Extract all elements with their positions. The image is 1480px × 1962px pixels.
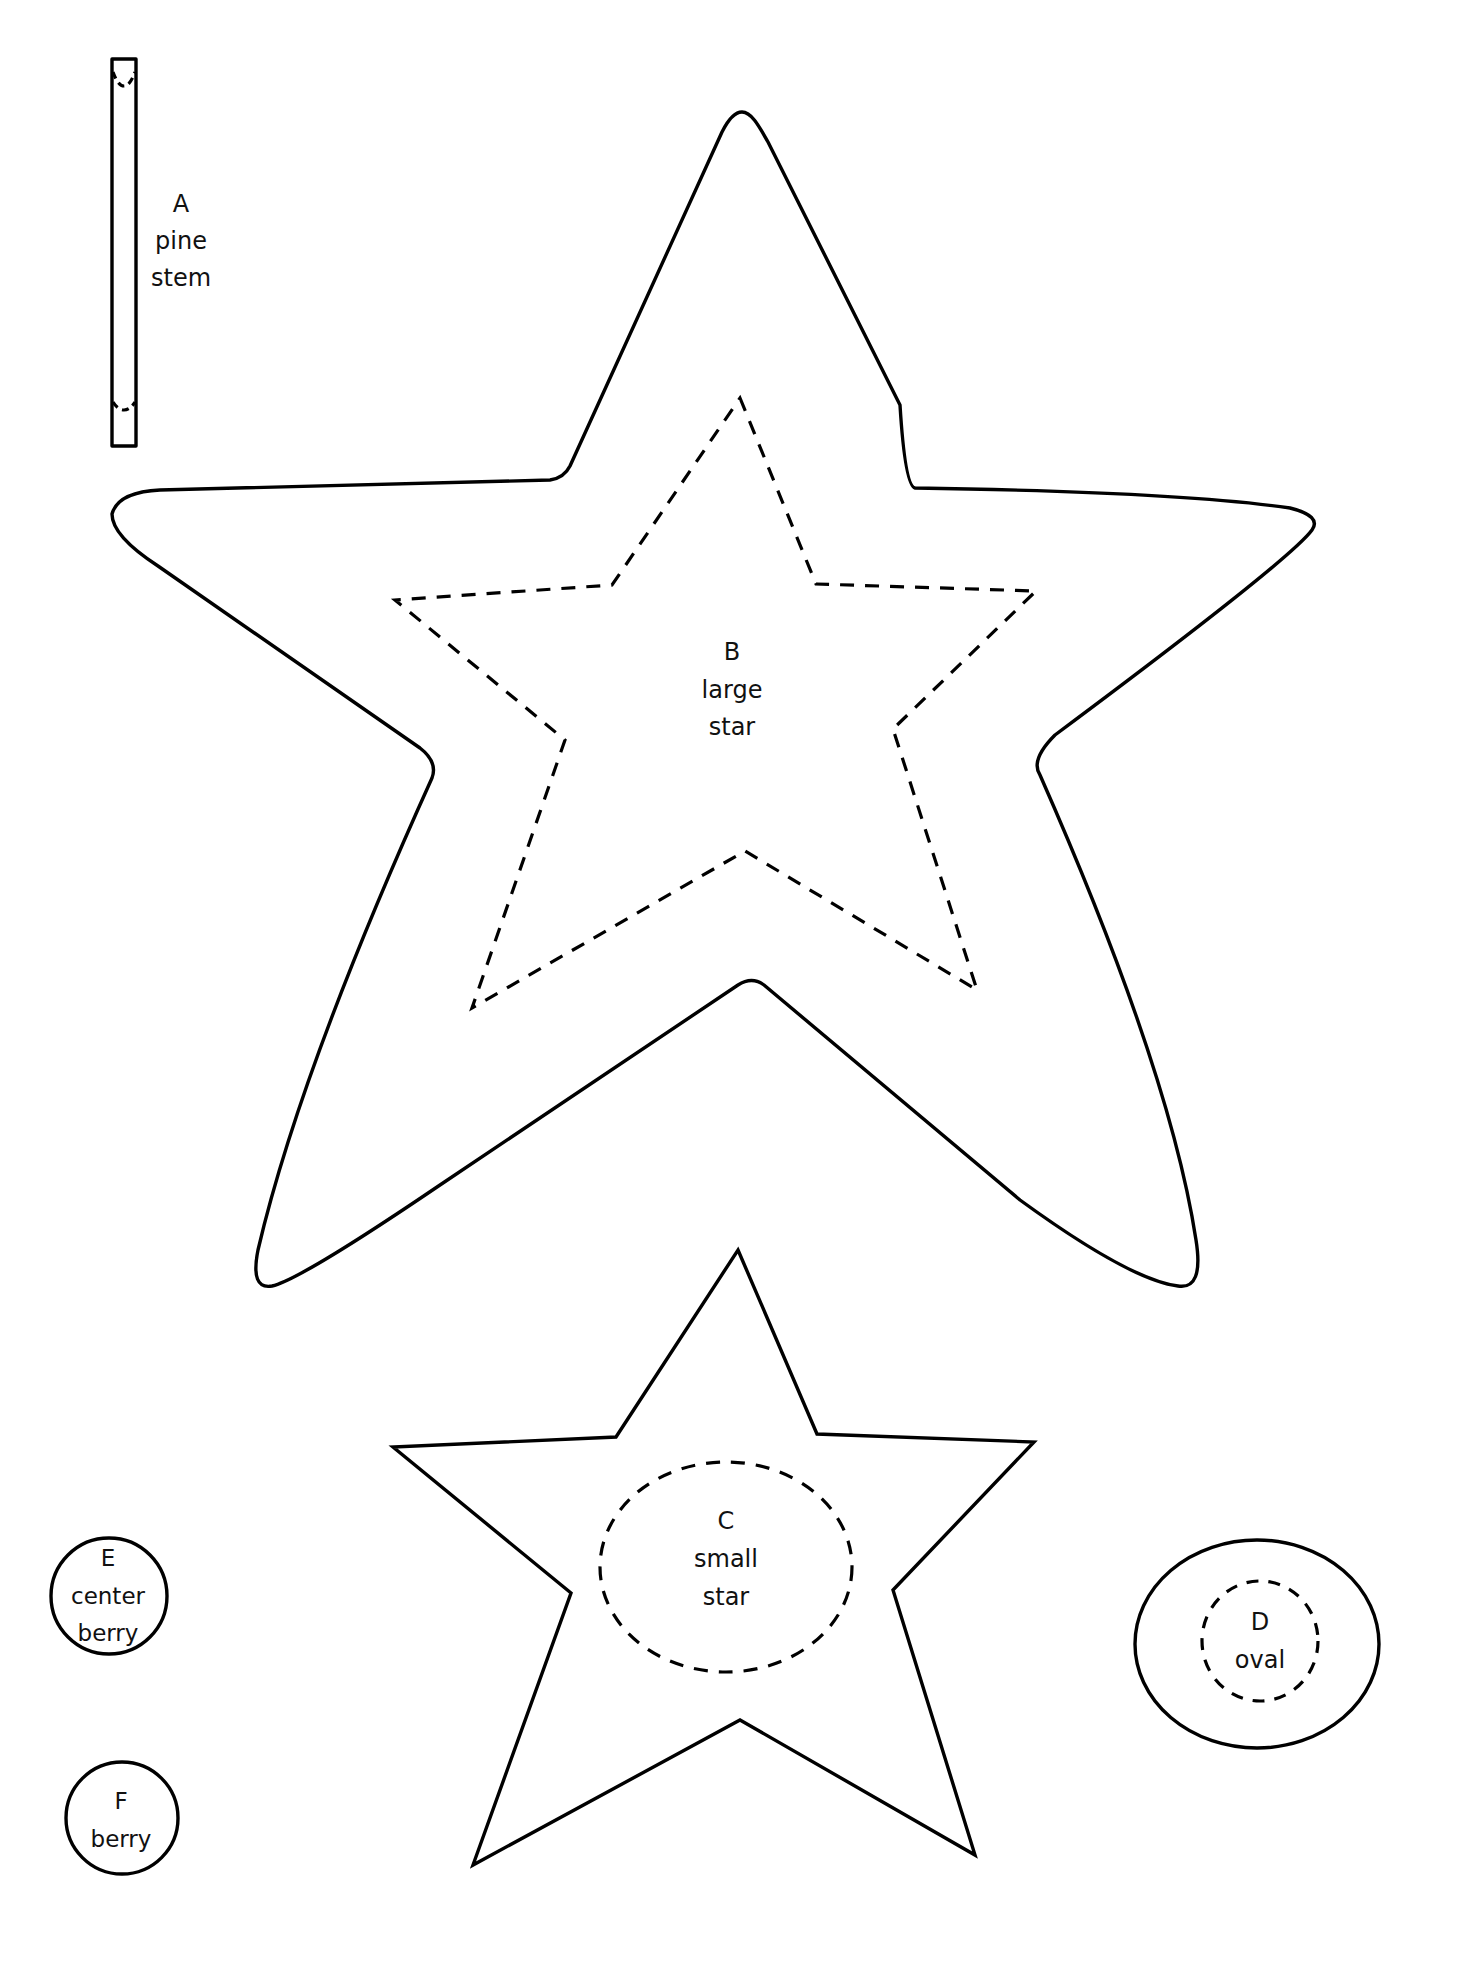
piece-f-letter: F [114,1788,127,1814]
piece-d-name-line1: oval [1235,1646,1285,1674]
piece-b-name-line1: large [702,676,763,704]
piece-a-letter: A [173,190,190,218]
piece-e-letter: E [101,1545,116,1571]
piece-b-letter: B [724,638,740,666]
oval-outline [1135,1540,1379,1748]
piece-d-letter: D [1251,1608,1269,1636]
piece-c-name-line2: star [703,1583,750,1611]
piece-f-berry: F berry [66,1762,178,1874]
oval-stitch-circle [1202,1581,1318,1701]
piece-e-center-berry: E center berry [51,1538,167,1654]
piece-a-pine-stem: A pine stem [112,59,211,446]
piece-b-name-line2: star [709,713,756,741]
piece-c-name-line1: small [694,1545,758,1573]
piece-f-name-line1: berry [91,1826,152,1852]
piece-e-name-line2: berry [78,1620,139,1646]
piece-a-name-line1: pine [155,227,207,255]
piece-b-large-star: B large star [112,112,1314,1286]
piece-d-oval: D oval [1135,1540,1379,1748]
pattern-sheet: A pine stem B large star C small star D … [0,0,1480,1962]
piece-e-name-line1: center [71,1583,146,1609]
pine-stem-top-fold-line [113,72,135,86]
piece-c-small-star: C small star [393,1250,1034,1865]
berry-outline [66,1762,178,1874]
piece-c-letter: C [718,1507,735,1535]
pine-stem-outline [112,59,136,446]
pine-stem-bottom-fold-line [113,402,135,410]
piece-a-name-line2: stem [151,264,211,292]
